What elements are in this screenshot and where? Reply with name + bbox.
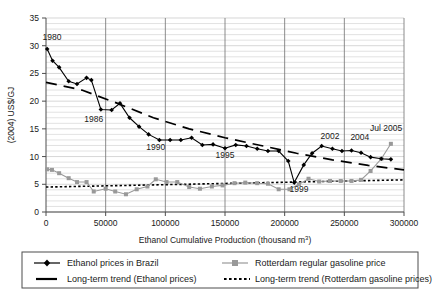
y-tick-label: 0 — [34, 207, 39, 217]
data-point-marker — [328, 179, 332, 183]
data-point-marker — [135, 187, 139, 191]
x-tick-label: 300000 — [390, 218, 419, 228]
x-tick-label: 200000 — [270, 218, 299, 228]
data-point-marker — [124, 192, 128, 196]
data-point-marker — [67, 176, 71, 180]
chart-figure: 05101520253035 0500001000001500002000002… — [0, 0, 440, 294]
data-point-marker — [221, 183, 225, 187]
y-tick-label: 25 — [30, 68, 40, 78]
data-point-marker — [210, 185, 214, 189]
annotation-label: 1986 — [84, 114, 103, 124]
x-tick-label: 150000 — [211, 218, 240, 228]
legend-label-ethanol-prices: Ethanol prices in Brazil — [67, 258, 159, 268]
data-point-marker — [104, 187, 108, 191]
y-tick-label: 30 — [30, 41, 40, 51]
data-point-marker — [165, 180, 169, 184]
data-point-marker — [266, 182, 270, 186]
data-point-marker — [75, 180, 79, 184]
legend-label-ethanol-trend: Long-term trend (Ethanol prices) — [67, 274, 197, 284]
data-point-marker — [233, 181, 237, 185]
data-point-marker — [369, 169, 373, 173]
data-point-marker — [50, 168, 54, 172]
data-point-marker — [154, 177, 158, 181]
annotation-label: Jul 2005 — [370, 123, 402, 133]
data-point-marker — [57, 171, 61, 175]
legend-item-gasoline-trend: Long-term trend (Rotterdam gasoline pric… — [224, 274, 432, 284]
x-axis-title: Ethanol Cumulative Production (thousand … — [139, 235, 312, 245]
data-point-marker — [113, 189, 117, 193]
y-tick-label: 10 — [30, 152, 40, 162]
legend-label-gasoline-trend: Long-term trend (Rotterdam gasoline pric… — [255, 274, 432, 284]
data-point-marker — [277, 187, 281, 191]
square-marker-icon — [232, 260, 238, 266]
y-tick-label: 15 — [30, 124, 40, 134]
data-point-marker — [145, 185, 149, 189]
y-tick-label: 35 — [30, 13, 40, 23]
data-point-marker — [317, 180, 321, 184]
price-trend-chart: 05101520253035 0500001000001500002000002… — [0, 0, 440, 294]
x-tick-label: 0 — [44, 218, 49, 228]
data-point-marker — [85, 180, 89, 184]
x-tick-label: 50000 — [94, 218, 118, 228]
data-point-marker — [243, 181, 247, 185]
data-point-marker — [45, 167, 49, 171]
annotation-label: 1980 — [43, 32, 62, 42]
annotation-label: 1999 — [290, 184, 309, 194]
data-point-marker — [349, 179, 353, 183]
annotation-label: 1990 — [146, 142, 165, 152]
annotation-label: 2002 — [321, 131, 340, 141]
y-axis-title: (2004) US$/GJ — [6, 87, 16, 144]
data-point-marker — [339, 179, 343, 183]
legend-label-gasoline-price: Rotterdam regular gasoline price — [255, 258, 386, 268]
data-point-marker — [175, 180, 179, 184]
data-point-marker — [359, 178, 363, 182]
annotation-label: 2004 — [350, 132, 369, 142]
data-point-marker — [198, 187, 202, 191]
data-point-marker — [307, 177, 311, 181]
y-tick-label: 20 — [30, 96, 40, 106]
x-tick-label: 250000 — [330, 218, 359, 228]
data-point-marker — [92, 189, 96, 193]
x-tick-label: 100000 — [151, 218, 180, 228]
y-tick-label: 5 — [34, 179, 39, 189]
annotation-label: 1995 — [216, 150, 235, 160]
data-point-marker — [255, 181, 259, 185]
data-point-marker — [389, 142, 393, 146]
data-point-marker — [187, 185, 191, 189]
